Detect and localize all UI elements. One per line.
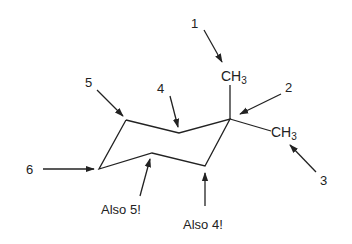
label-also-5: Also 5!	[101, 203, 141, 216]
arrow-1	[204, 30, 222, 62]
arrows	[43, 30, 316, 206]
arrow-3	[290, 145, 316, 172]
diagram-canvas	[0, 0, 352, 244]
methyl-top-label: CH3	[221, 69, 247, 86]
label-3: 3	[320, 174, 327, 187]
cyclohexane-diagram: CH3 CH3 1 2 3 4 5 6 Also 5! Also 4!	[0, 0, 352, 244]
arrow-5	[97, 90, 123, 116]
chair-ring	[99, 119, 230, 169]
label-6: 6	[26, 163, 33, 176]
methyl-bonds	[230, 85, 271, 131]
methyl-right-label: CH3	[271, 125, 297, 142]
label-1: 1	[191, 17, 198, 30]
arrow-4	[170, 96, 178, 127]
arrow-2	[240, 94, 281, 114]
label-5: 5	[85, 76, 92, 89]
arrow-also5	[140, 159, 150, 196]
label-2: 2	[285, 81, 292, 94]
label-also-4: Also 4!	[183, 218, 223, 231]
label-4: 4	[157, 82, 164, 95]
bond-right-methyl	[230, 119, 271, 131]
